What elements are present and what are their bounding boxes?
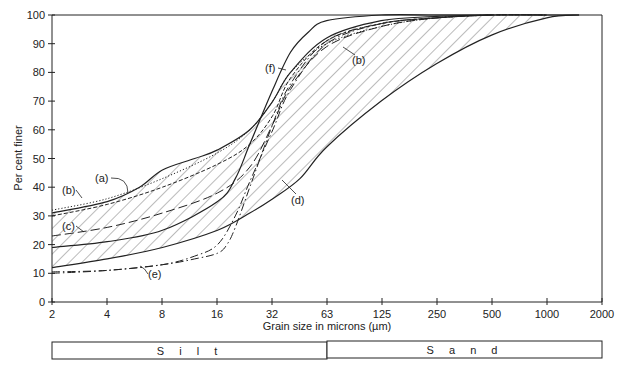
label-e: (e) [148,268,161,280]
x-tick-label: 125 [373,308,391,320]
x-axis-title: Grain size in microns (µm) [263,320,392,332]
y-tick-label: 50 [33,153,45,165]
x-tick-label: 16 [211,308,223,320]
x-tick-label: 4 [104,308,110,320]
grain-size-chart: 0102030405060708090100 24816326312525050… [0,0,624,369]
y-tick-label: 40 [33,181,45,193]
y-axis-title: Per cent finer [12,125,24,191]
y-tick-label: 90 [33,38,45,50]
label-b: (b) [62,184,75,196]
x-tick-label: 32 [266,308,278,320]
y-tick-label: 100 [27,9,45,21]
x-tick-label: 500 [483,308,501,320]
leader-b [76,190,82,198]
sand-label: S a n d [427,344,504,356]
label-b-upper: (b) [352,54,365,66]
envelope-hatched-area [52,15,579,268]
y-tick-label: 60 [33,124,45,136]
x-ticks: 24816326312525050010002000 [49,298,614,320]
y-tick-label: 10 [33,267,45,279]
silt-label: S i l t [157,345,223,357]
y-tick-label: 80 [33,66,45,78]
y-tick-label: 30 [33,210,45,222]
label-f: (f) [265,62,275,74]
y-tick-label: 20 [33,239,45,251]
x-tick-label: 8 [159,308,165,320]
x-tick-label: 2000 [590,308,614,320]
y-ticks: 0102030405060708090100 [27,9,55,308]
x-tick-label: 2 [49,308,55,320]
x-tick-label: 63 [321,308,333,320]
y-tick-label: 0 [39,296,45,308]
x-tick-label: 250 [428,308,446,320]
leader-a [111,178,128,193]
x-tick-label: 1000 [535,308,559,320]
label-c: (c) [62,220,75,232]
y-tick-label: 70 [33,95,45,107]
label-a: (a) [95,172,108,184]
label-d: (d) [291,194,304,206]
